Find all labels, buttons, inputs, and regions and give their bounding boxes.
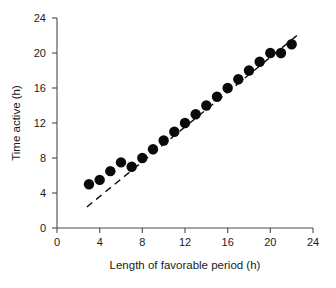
reference-dashed-line: [87, 33, 300, 207]
data-point: [190, 109, 200, 119]
data-point: [222, 83, 232, 93]
x-tick-label-16: 16: [222, 236, 234, 248]
data-point: [169, 127, 179, 137]
y-tick-label-20: 20: [34, 47, 46, 59]
y-tick-label-0: 0: [40, 222, 46, 234]
data-point: [158, 135, 168, 145]
data-point: [201, 100, 211, 110]
x-tick-label-0: 0: [54, 236, 60, 248]
x-tick-label-20: 20: [264, 236, 276, 248]
scatter-plot-svg: 0 4 8 12 16 20 24 0 4 8 12 16 20 24: [0, 0, 336, 288]
data-point: [94, 175, 104, 185]
x-tick-label-12: 12: [179, 236, 191, 248]
y-axis-ticks: [52, 18, 57, 228]
data-point: [254, 57, 264, 67]
x-axis-tick-labels: 0 4 8 12 16 20 24: [54, 236, 319, 248]
y-tick-label-8: 8: [40, 152, 46, 164]
y-axis-tick-labels: 0 4 8 12 16 20 24: [34, 12, 46, 234]
y-tick-label-4: 4: [40, 187, 46, 199]
y-tick-label-24: 24: [34, 12, 46, 24]
x-axis-ticks: [57, 228, 313, 233]
data-point: [137, 153, 147, 163]
data-point: [212, 92, 222, 102]
data-point: [84, 179, 94, 189]
data-point: [233, 74, 243, 84]
data-point: [265, 48, 275, 58]
data-point: [148, 144, 158, 154]
data-point: [286, 39, 296, 49]
data-point: [105, 166, 115, 176]
data-point: [126, 162, 136, 172]
data-point: [116, 157, 126, 167]
x-tick-label-4: 4: [97, 236, 103, 248]
x-tick-label-8: 8: [139, 236, 145, 248]
y-axis-title: Time active (h): [10, 85, 22, 161]
y-tick-label-16: 16: [34, 82, 46, 94]
x-axis-title: Length of favorable period (h): [110, 259, 261, 271]
data-point: [180, 118, 190, 128]
data-point: [276, 48, 286, 58]
chart-figure: 0 4 8 12 16 20 24 0 4 8 12 16 20 24: [0, 0, 336, 288]
x-tick-label-24: 24: [307, 236, 319, 248]
y-tick-label-12: 12: [34, 117, 46, 129]
data-point: [244, 65, 254, 75]
